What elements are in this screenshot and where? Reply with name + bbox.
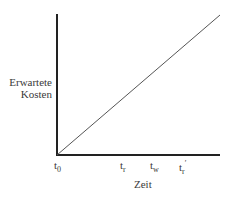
y-axis-label-line-2: Kosten: [6, 88, 52, 100]
x-axis-label: Zeit: [134, 178, 152, 190]
x-tick-tw: tw: [150, 159, 159, 174]
cost-line: [57, 15, 220, 155]
x-tick-t0: t0: [54, 159, 61, 174]
y-axis-label: Erwartete Kosten: [6, 76, 52, 100]
x-tick-tr-prime: tr′: [179, 159, 186, 176]
y-axis-label-line-1: Erwartete: [6, 76, 52, 88]
chart-canvas: [0, 0, 233, 201]
x-tick-tr: tr: [120, 159, 126, 174]
